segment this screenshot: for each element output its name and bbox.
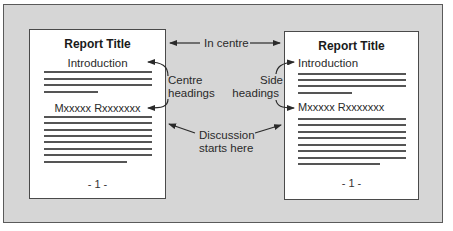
arrow-icon <box>255 125 281 133</box>
curved-arrow-icon <box>276 62 294 74</box>
curved-arrow-icon <box>148 99 168 108</box>
curved-arrow-icon <box>276 100 294 108</box>
annotation-arrows <box>0 0 453 231</box>
curved-arrow-icon <box>148 62 168 76</box>
arrow-icon <box>169 124 195 133</box>
